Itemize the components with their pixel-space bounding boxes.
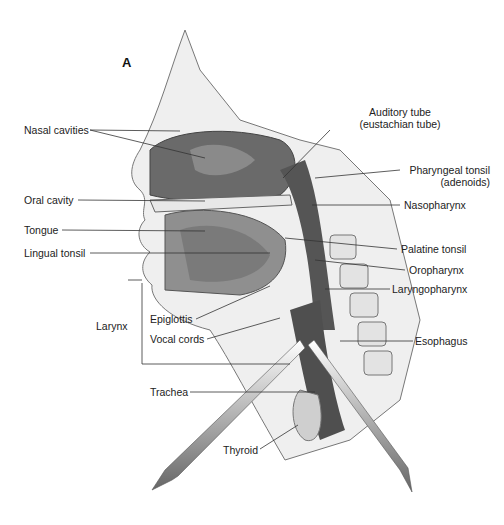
label-lingual-tonsil: Lingual tonsil — [24, 247, 85, 259]
label-vocal-cords: Vocal cords — [150, 333, 204, 345]
label-trachea: Trachea — [150, 386, 188, 398]
label-pharyngeal-tonsil: Pharyngeal tonsil (adenoids) — [380, 164, 490, 188]
label-larynx: Larynx — [96, 320, 128, 332]
label-esophagus: Esophagus — [415, 335, 468, 347]
label-nasopharynx: Nasopharynx — [404, 199, 466, 211]
label-tongue: Tongue — [24, 224, 58, 236]
label-oral-cavity: Oral cavity — [24, 194, 74, 206]
label-epiglottis: Epiglottis — [150, 313, 193, 325]
label-auditory-tube: Auditory tube (eustachian tube) — [315, 106, 485, 130]
label-oropharynx: Oropharynx — [409, 264, 464, 276]
panel-letter: A — [122, 55, 131, 70]
anatomy-diagram: A Nasal cavities Oral cavity Tongue Ling… — [0, 0, 504, 525]
label-thyroid: Thyroid — [223, 444, 258, 456]
label-nasal-cavities: Nasal cavities — [24, 124, 89, 136]
label-laryngopharynx: Laryngopharynx — [392, 283, 467, 295]
label-palatine-tonsil: Palatine tonsil — [401, 243, 466, 255]
